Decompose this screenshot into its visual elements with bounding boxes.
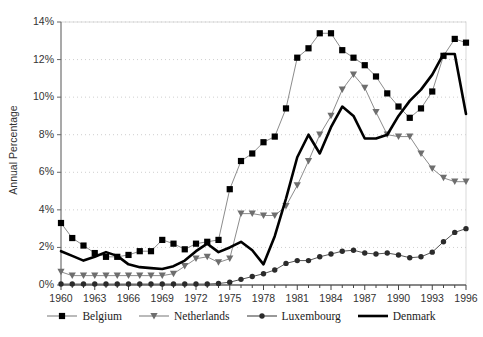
series-denmark	[61, 54, 466, 269]
x-tick-label: 1996	[446, 292, 483, 304]
data-point-marker	[115, 281, 120, 286]
data-point-marker	[452, 230, 457, 235]
data-point-marker	[148, 281, 153, 286]
data-point-marker	[418, 105, 424, 111]
data-point-marker	[385, 250, 390, 255]
data-point-marker	[395, 103, 401, 109]
data-point-marker	[238, 277, 243, 282]
y-tick-label: 14%	[14, 15, 54, 27]
data-point-marker	[103, 281, 108, 286]
data-point-marker	[327, 113, 334, 120]
data-point-marker	[328, 30, 334, 36]
data-point-marker	[294, 55, 300, 61]
data-point-marker	[80, 242, 86, 248]
data-point-marker	[259, 313, 264, 318]
data-point-marker	[192, 256, 199, 263]
data-point-marker	[125, 252, 131, 258]
data-point-marker	[441, 239, 446, 244]
data-point-marker	[350, 55, 356, 61]
data-point-marker	[260, 139, 266, 145]
data-point-marker	[193, 241, 199, 247]
legend-label: Denmark	[393, 310, 436, 322]
data-point-marker	[362, 250, 367, 255]
data-point-marker	[272, 267, 277, 272]
legend-swatch-netherlands-icon	[139, 310, 169, 322]
data-point-marker	[463, 40, 469, 46]
y-tick-label: 8%	[14, 128, 54, 140]
data-point-marker	[396, 252, 401, 257]
data-point-marker	[92, 281, 97, 286]
data-point-marker	[294, 182, 301, 189]
legend-swatch-denmark-icon	[358, 310, 388, 322]
data-point-marker	[340, 248, 345, 253]
data-point-marker	[226, 256, 233, 263]
data-point-marker	[283, 261, 288, 266]
legend-swatch-belgium-icon	[47, 310, 77, 322]
data-point-marker	[452, 36, 458, 42]
data-point-marker	[440, 175, 447, 182]
data-point-marker	[305, 45, 311, 51]
data-point-marker	[418, 254, 423, 259]
data-point-marker	[215, 259, 222, 266]
data-point-marker	[216, 281, 221, 286]
data-point-marker	[70, 281, 75, 286]
data-point-marker	[215, 237, 221, 243]
data-point-marker	[148, 248, 154, 254]
data-point-marker	[181, 263, 188, 270]
data-point-marker	[57, 269, 64, 276]
data-point-marker	[373, 251, 378, 256]
y-tick-label: 10%	[14, 90, 54, 102]
data-point-marker	[407, 255, 412, 260]
plot-frame	[61, 22, 466, 285]
data-point-marker	[429, 88, 435, 94]
data-point-marker	[339, 47, 345, 53]
legend-item-netherlands[interactable]: Netherlands	[139, 310, 230, 322]
chart-container: Annual Percentage 0%2%4%6%8%10%12%14%196…	[0, 0, 483, 337]
data-point-marker	[160, 281, 165, 286]
data-point-marker	[339, 87, 346, 94]
data-point-marker	[159, 237, 165, 243]
data-point-marker	[249, 150, 255, 156]
data-point-marker	[58, 220, 64, 226]
legend-item-denmark[interactable]: Denmark	[358, 310, 436, 322]
data-point-marker	[305, 158, 312, 165]
data-point-marker	[295, 258, 300, 263]
data-point-marker	[261, 271, 266, 276]
data-point-marker	[81, 281, 86, 286]
data-point-marker	[351, 248, 356, 253]
plot-area	[0, 0, 483, 337]
data-point-marker	[227, 279, 232, 284]
data-point-marker	[137, 248, 143, 254]
legend-item-luxembourg[interactable]: Luxembourg	[247, 310, 341, 322]
data-point-marker	[170, 241, 176, 247]
legend-label: Belgium	[82, 310, 122, 322]
data-point-marker	[407, 115, 413, 121]
series-line	[61, 54, 466, 269]
data-point-marker	[193, 281, 198, 286]
y-tick-label: 12%	[14, 53, 54, 65]
y-tick-label: 2%	[14, 240, 54, 252]
legend-item-belgium[interactable]: Belgium	[47, 310, 122, 322]
data-point-marker	[430, 249, 435, 254]
data-point-marker	[171, 281, 176, 286]
data-point-marker	[306, 258, 311, 263]
data-point-marker	[384, 90, 390, 96]
data-point-marker	[417, 150, 424, 157]
data-point-marker	[238, 158, 244, 164]
data-point-marker	[205, 281, 210, 286]
legend-label: Netherlands	[174, 310, 230, 322]
data-point-marker	[283, 105, 289, 111]
y-tick-label: 0%	[14, 278, 54, 290]
data-point-marker	[69, 235, 75, 241]
data-point-marker	[272, 133, 278, 139]
data-point-marker	[126, 281, 131, 286]
legend-swatch-luxembourg-icon	[247, 310, 277, 322]
data-point-marker	[328, 251, 333, 256]
data-point-marker	[250, 274, 255, 279]
data-point-marker	[317, 254, 322, 259]
data-point-marker	[59, 313, 65, 319]
y-tick-label: 4%	[14, 203, 54, 215]
legend-label: Luxembourg	[282, 310, 341, 322]
data-point-marker	[58, 281, 63, 286]
series-belgium	[58, 30, 469, 260]
